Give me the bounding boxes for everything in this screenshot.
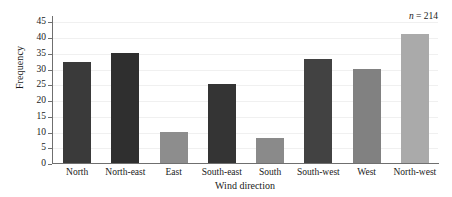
y-tick-label: 5 (41, 144, 46, 154)
bar-fill (401, 34, 429, 163)
bar-chart: Frequency 051015202530354045 NorthNorth-… (0, 0, 452, 197)
x-tick-label: North-east (101, 166, 149, 178)
y-tick-label: 20 (37, 96, 47, 106)
y-tick-mark (48, 101, 52, 102)
bar (304, 59, 332, 163)
y-tick-label: 40 (37, 33, 47, 43)
y-tick-label: 45 (37, 18, 47, 28)
y-axis-title: Frequency (14, 18, 25, 118)
y-tick-label: 10 (37, 128, 47, 138)
x-axis-title: Wind direction (52, 180, 438, 191)
y-tick-label: 15 (37, 112, 47, 122)
y-tick-mark (48, 148, 52, 149)
plot-area: 051015202530354045 (52, 16, 438, 164)
bar (353, 69, 381, 163)
sample-size-equals: = (414, 11, 424, 21)
y-tick-label: 30 (37, 65, 47, 75)
x-tick-label: South-west (294, 166, 342, 178)
bar-series (53, 16, 438, 163)
y-tick-label: 0 (41, 159, 46, 169)
bar (63, 62, 91, 163)
x-tick-label: South-east (198, 166, 246, 178)
y-tick-mark (48, 164, 52, 165)
bar-fill (63, 62, 91, 163)
sample-size-annotation: n = 214 (409, 11, 438, 21)
bar-fill (208, 84, 236, 163)
bar (256, 138, 284, 163)
y-tick-label: 35 (37, 49, 47, 59)
x-tick-label: West (343, 166, 391, 178)
y-tick-mark (48, 38, 52, 39)
y-tick-mark (48, 133, 52, 134)
y-tick-mark (48, 117, 52, 118)
x-tick-label: North-west (391, 166, 439, 178)
bar-fill (256, 138, 284, 163)
bar-fill (111, 53, 139, 163)
x-tick-label: North (53, 166, 101, 178)
y-tick-label: 25 (37, 81, 47, 91)
x-tick-label: South (246, 166, 294, 178)
y-tick-mark (48, 85, 52, 86)
y-tick-mark (48, 54, 52, 55)
x-axis-line (52, 163, 439, 164)
bar (111, 53, 139, 163)
y-tick-mark (48, 22, 52, 23)
x-tick-label: East (150, 166, 198, 178)
bar (401, 34, 429, 163)
bar-fill (160, 132, 188, 163)
y-tick-mark (48, 70, 52, 71)
bar (208, 84, 236, 163)
bar-fill (304, 59, 332, 163)
sample-size-value: 214 (424, 11, 438, 21)
bar-fill (353, 69, 381, 163)
bar (160, 132, 188, 163)
